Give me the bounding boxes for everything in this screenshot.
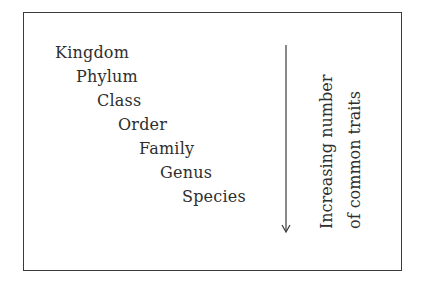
arrow-label-line1: Increasing number xyxy=(319,75,335,229)
arrow-label-line2: of common traits xyxy=(347,91,363,229)
